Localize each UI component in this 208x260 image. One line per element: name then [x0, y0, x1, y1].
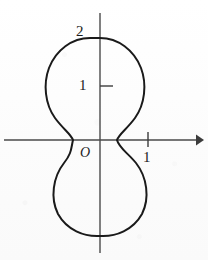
origin-label: O — [80, 146, 90, 160]
y-axis-label-1: 1 — [79, 78, 87, 93]
peanut-curve — [46, 38, 147, 236]
polar-curve-plot — [0, 0, 208, 260]
x-axis-label-1: 1 — [143, 150, 151, 165]
y-axis-label-2: 2 — [76, 24, 84, 39]
x-axis-arrow-icon — [196, 135, 204, 146]
figure-container: 2 1 O 1 — [0, 0, 208, 260]
